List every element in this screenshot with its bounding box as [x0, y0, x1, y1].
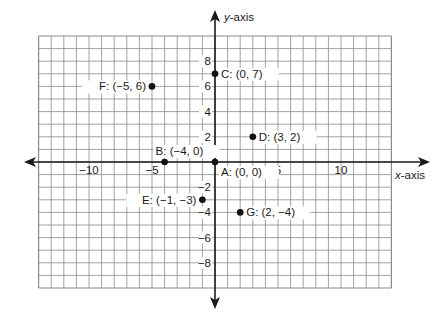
coordinate-plane-svg: −10−55108642−2−4−6−8 A: (0, 0)B: (−4, 0)…: [0, 0, 442, 323]
point-e-label: E: (−1, −3): [142, 194, 197, 206]
y-tick-label: −4: [198, 206, 212, 218]
point-a-label: A: (0, 0): [221, 166, 262, 178]
coordinate-plane-figure: −10−55108642−2−4−6−8 A: (0, 0)B: (−4, 0)…: [0, 0, 442, 323]
y-tick-label: 6: [205, 80, 211, 92]
point-e-dot: [199, 197, 206, 204]
y-tick-label: 2: [205, 131, 211, 143]
x-tick-label: 10: [335, 164, 348, 176]
x-tick-label: −5: [145, 164, 158, 176]
y-tick-label: 8: [205, 55, 211, 67]
point-c-label: C: (0, 7): [221, 68, 263, 80]
point-b-dot: [161, 159, 168, 166]
x-axis-label: x-axis: [394, 169, 425, 181]
point-g-dot: [237, 209, 244, 216]
point-c-dot: [212, 71, 219, 78]
point-a-dot: [212, 159, 219, 166]
point-f-label: F: (−5, 6): [99, 80, 146, 92]
y-axis-label: y-axis: [223, 11, 254, 23]
point-b-label: B: (−4, 0): [156, 145, 204, 157]
y-tick-label: 4: [205, 106, 212, 118]
point-g-label: G: (2, −4): [246, 206, 295, 218]
axes: [24, 10, 430, 309]
y-tick-label: −6: [198, 232, 211, 244]
point-f-dot: [149, 83, 156, 90]
y-tick-label: −8: [198, 257, 211, 269]
point-d-label: D: (3, 2): [259, 131, 301, 143]
x-tick-label: −10: [79, 164, 99, 176]
point-d-dot: [250, 134, 257, 141]
y-tick-label: −2: [198, 181, 211, 193]
